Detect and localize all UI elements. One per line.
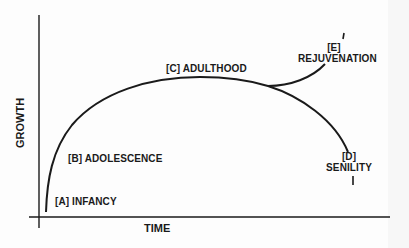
senility-marker: [D] xyxy=(325,151,373,162)
rejuvenation-branch xyxy=(268,64,325,86)
rejuvenation-marker: [E] xyxy=(298,42,370,53)
rejuvenation-tick xyxy=(343,33,344,39)
stage-adulthood-label: [C] ADULTHOOD xyxy=(166,63,247,74)
rejuvenation-name: REJUVENATION xyxy=(298,53,370,64)
lifecycle-curve xyxy=(46,77,348,212)
y-axis-label: GROWTH xyxy=(14,98,26,148)
stage-rejuvenation-label: [E] REJUVENATION xyxy=(298,42,370,64)
stage-adolescence-label: [B] ADOLESCENCE xyxy=(68,153,162,164)
stage-senility-label: [D] SENILITY xyxy=(325,151,373,173)
senility-name: SENILITY xyxy=(325,162,373,173)
x-axis-label: TIME xyxy=(144,222,170,234)
growth-curve-diagram xyxy=(0,0,409,248)
stage-infancy-label: [A] INFANCY xyxy=(55,196,117,207)
